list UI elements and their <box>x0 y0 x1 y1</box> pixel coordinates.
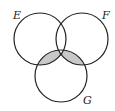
circle-g <box>35 50 87 102</box>
circle-e <box>14 13 66 65</box>
venn-diagram: E F G <box>0 0 115 111</box>
circle-f <box>56 13 108 65</box>
label-g: G <box>83 94 92 107</box>
label-f: F <box>101 9 110 22</box>
label-e: E <box>12 9 21 22</box>
